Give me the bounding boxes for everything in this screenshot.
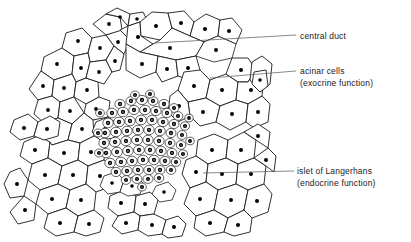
label-acinar-cells: acinar cells (exocrine function) — [300, 66, 373, 89]
pancreas-histology-figure: .cell{fill:#ffffff;stroke:#1a1a1a;stroke… — [0, 0, 411, 242]
label-central-duct: central duct — [300, 31, 346, 43]
acinar-cluster-right-lower — [182, 124, 276, 236]
label-islet-line2: (endocrine function) — [297, 178, 376, 190]
label-islet-of-langerhans: islet of Langerhans (endocrine function) — [297, 166, 376, 189]
label-central-duct-text: central duct — [300, 31, 346, 41]
label-acinar-cells-line1: acinar cells — [300, 66, 345, 76]
label-acinar-cells-line2: (exocrine function) — [300, 78, 373, 90]
label-islet-line1: islet of Langerhans — [297, 166, 372, 176]
